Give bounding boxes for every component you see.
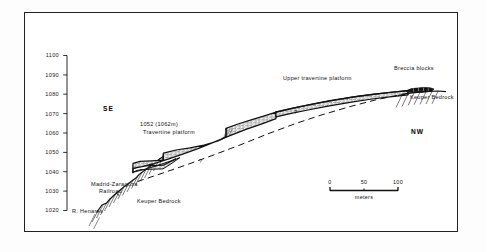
annotation-railroad-line1: Madrid-Zaragoza <box>91 181 138 187</box>
scale-bar <box>330 187 398 191</box>
scalebar-caption: meters <box>346 194 382 200</box>
annotation-query-upper: ? <box>294 109 297 115</box>
annotation-breccia-blocks: Breccia blocks <box>394 65 434 71</box>
cross-section-drawing <box>0 0 486 252</box>
compass-label-se: SE <box>103 105 114 112</box>
annotation-lower-platform-elevation: 1052 (1062m) <box>140 121 178 127</box>
scalebar-label-0: 0 <box>321 179 339 185</box>
axis-tick-1060: 1060 <box>33 130 59 136</box>
axis-tick-1050: 1050 <box>33 149 59 155</box>
geological-cross-section-figure: 1100 1090 1080 1070 1060 1050 1040 1030 … <box>0 0 486 252</box>
axis-tick-1080: 1080 <box>33 91 59 97</box>
annotation-upper-platform: Upper travertine platform <box>283 75 352 81</box>
annotation-lower-platform-name: Travertine platform <box>143 129 195 135</box>
axis-tick-1030: 1030 <box>33 188 59 194</box>
annotation-railroad-line2: Railroad <box>99 188 122 194</box>
annotation-river-henares: R. Henares <box>72 208 103 214</box>
annotation-query-lower: ? <box>199 158 202 164</box>
inferred-contact-dashed <box>138 93 411 182</box>
compass-label-nw: NW <box>411 128 424 135</box>
annotation-keuper-bedrock-right: Keuper Bedrock <box>410 94 454 100</box>
scalebar-label-50: 50 <box>355 179 373 185</box>
scalebar-label-100: 100 <box>389 179 407 185</box>
axis-tick-1020: 1020 <box>33 207 59 213</box>
axis-tick-1100: 1100 <box>33 52 59 58</box>
annotation-keuper-bedrock-left: Keuper Bedrock <box>137 198 181 204</box>
axis-tick-1090: 1090 <box>33 72 59 78</box>
axis-tick-1040: 1040 <box>33 168 59 174</box>
elevation-axis <box>63 56 67 211</box>
axis-tick-1070: 1070 <box>33 110 59 116</box>
